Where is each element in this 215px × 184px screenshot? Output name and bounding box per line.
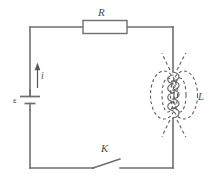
switch-blade[interactable] [93, 159, 120, 168]
resistor-label: R [98, 7, 105, 18]
resistor-body [83, 21, 127, 34]
current-arrow-head [35, 63, 41, 71]
battery-symbol [20, 90, 40, 110]
circuit-diagram: R i ε L K [0, 0, 215, 184]
magnetic-field-lines [151, 53, 198, 137]
field-strand-lower-left [162, 120, 170, 137]
field-strand-upper-left [162, 53, 170, 70]
switch-pivot [92, 167, 94, 169]
field-strand-upper-right [177, 53, 186, 70]
current-label: i [41, 72, 44, 82]
switch-label: K [101, 144, 108, 155]
emf-label: ε [13, 96, 17, 105]
inductor-label: L [198, 92, 204, 103]
circuit-schematic-canvas [0, 0, 215, 184]
resistor-symbol [83, 21, 127, 34]
field-strand-lower-right [177, 120, 186, 137]
switch-symbol[interactable] [92, 159, 120, 169]
current-arrow [35, 63, 41, 89]
